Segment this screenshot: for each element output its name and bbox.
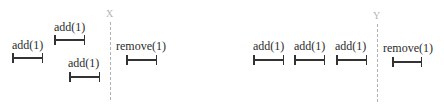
op-label: add(1)	[294, 40, 325, 52]
op-label: add(1)	[12, 39, 43, 51]
marker-y-label: Y	[373, 11, 380, 21]
op-interval-bar	[253, 55, 284, 65]
linearization-line-y	[377, 24, 378, 102]
op-label: add(1)	[335, 40, 366, 52]
op-interval-bar	[69, 72, 100, 82]
op-interval-bar	[12, 53, 43, 63]
op-interval-bar	[294, 55, 325, 65]
op-label: remove(1)	[116, 40, 166, 52]
op-interval-bar	[336, 55, 367, 65]
op-interval-bar	[392, 57, 422, 67]
op-interval-bar	[126, 55, 157, 65]
op-label: add(1)	[68, 57, 99, 69]
marker-x-label: X	[106, 9, 113, 19]
op-interval-bar	[54, 35, 85, 45]
linearization-line-x	[110, 22, 111, 100]
op-label: add(1)	[54, 21, 85, 33]
op-label: remove(1)	[383, 42, 433, 54]
op-label: add(1)	[253, 40, 284, 52]
